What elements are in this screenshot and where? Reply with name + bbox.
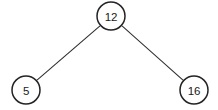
edge-root-to-right-child bbox=[122, 26, 183, 80]
tree-edges-group bbox=[37, 26, 183, 80]
tree-nodes-group: 12 5 16 bbox=[12, 2, 208, 104]
tree-node-left-child[interactable]: 5 bbox=[12, 76, 40, 104]
node-label-right-child: 16 bbox=[188, 85, 200, 97]
node-label-left-child: 5 bbox=[23, 85, 29, 97]
node-label-root: 12 bbox=[105, 11, 117, 23]
tree-node-root[interactable]: 12 bbox=[97, 2, 125, 30]
edge-root-to-left-child bbox=[37, 26, 100, 80]
tree-node-right-child[interactable]: 16 bbox=[180, 76, 208, 104]
tree-diagram-canvas: 12 5 16 bbox=[0, 0, 218, 110]
tree-diagram-svg: 12 5 16 bbox=[0, 0, 218, 110]
